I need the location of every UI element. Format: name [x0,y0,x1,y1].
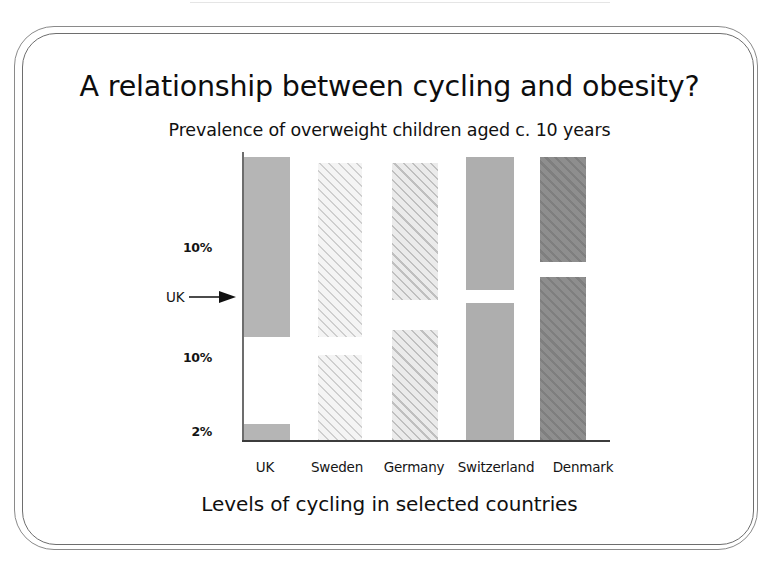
x-axis-label-uk: UK [225,459,305,475]
chart-plot-area [242,152,610,444]
y-axis-tick-label-1: 10% [150,240,212,255]
chart-subtitle: Prevalence of overweight children aged c… [0,120,779,140]
bar-switzerland-upper-segment [466,157,514,290]
bar-sweden-upper-segment [318,163,362,337]
bar-germany-lower-segment [392,330,438,440]
bar-uk-lower-segment [244,424,290,440]
scan-artifact-line [190,2,610,3]
uk-annotation: UK [166,286,237,308]
bar-switzerland-lower-segment [466,303,514,440]
arrow-right-icon [189,288,237,306]
x-axis-line [242,440,610,442]
y-axis-tick-label-3: 2% [150,424,212,439]
x-axis-label-denmark: Denmark [540,459,626,475]
bar-sweden-lower-segment [318,355,362,440]
slide-canvas: A relationship between cycling and obesi… [0,0,779,576]
bar-germany-upper-segment [392,163,438,300]
chart-caption: Levels of cycling in selected countries [0,492,779,516]
bar-denmark-upper-segment [540,157,586,262]
x-axis-label-sweden: Sweden [297,459,377,475]
bar-denmark-lower-segment [540,277,586,440]
page-title: A relationship between cycling and obesi… [0,70,779,103]
bar-uk-upper-segment [244,157,290,337]
uk-annotation-label: UK [166,289,184,305]
x-axis-label-switzerland: Switzerland [445,459,547,475]
y-axis-tick-label-2: 10% [150,350,212,365]
